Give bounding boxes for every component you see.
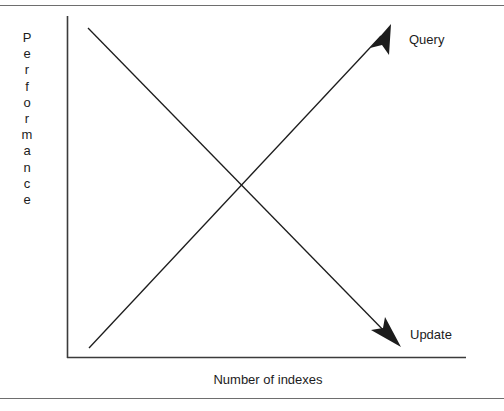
series-label-update: Update xyxy=(410,327,452,342)
performance-vs-indexes-figure: Performance Number of indexes Query Upda… xyxy=(0,0,504,411)
y-axis-label-glyph: n xyxy=(14,160,40,176)
y-axis-label-glyph: r xyxy=(14,62,40,78)
y-axis-label-glyph: r xyxy=(14,111,40,127)
chart-plot-area xyxy=(0,0,504,411)
y-axis-label-glyph: m xyxy=(14,127,40,143)
query-arrowhead-icon xyxy=(370,24,391,55)
y-axis-label-glyph: c xyxy=(14,176,40,192)
y-axis-label-glyph: a xyxy=(14,143,40,159)
y-axis-label-glyph: P xyxy=(14,30,40,46)
series-label-query: Query xyxy=(409,32,444,47)
x-axis-label: Number of indexes xyxy=(68,372,468,387)
y-axis-label-glyph: e xyxy=(14,46,40,62)
y-axis-label: Performance xyxy=(14,30,40,208)
y-axis-label-glyph: f xyxy=(14,79,40,95)
query-trend-line xyxy=(89,36,381,348)
y-axis-label-glyph: o xyxy=(14,95,40,111)
y-axis-label-glyph: e xyxy=(14,192,40,208)
